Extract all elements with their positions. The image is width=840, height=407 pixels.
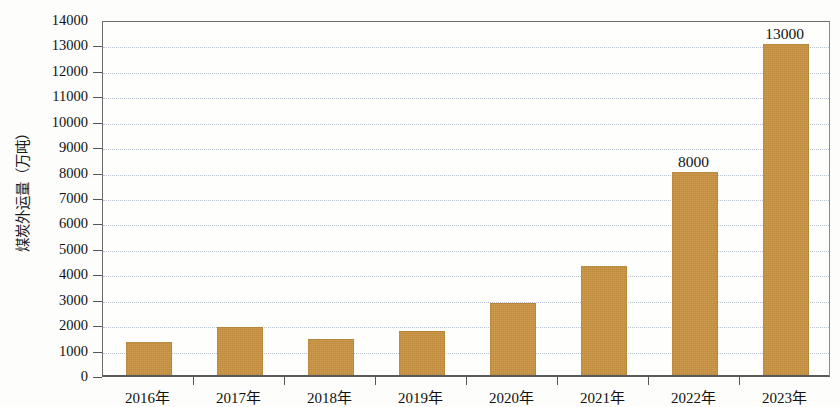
y-tick-mark bbox=[93, 377, 102, 378]
gridline bbox=[103, 124, 829, 125]
y-tick-label: 14000 bbox=[18, 13, 88, 28]
gridline bbox=[103, 276, 829, 277]
y-tick-mark bbox=[93, 123, 102, 124]
x-tick-mark bbox=[284, 377, 285, 385]
y-tick-label: 6000 bbox=[18, 216, 88, 231]
y-tick-label: 9000 bbox=[18, 140, 88, 155]
y-tick-mark bbox=[93, 199, 102, 200]
y-tick-mark bbox=[93, 224, 102, 225]
y-tick-mark bbox=[93, 174, 102, 175]
x-axis-label: 2022年 bbox=[648, 386, 739, 407]
y-tick-mark bbox=[93, 72, 102, 73]
y-tick-mark bbox=[93, 250, 102, 251]
bar-value-label: 13000 bbox=[740, 25, 830, 43]
y-tick-label: 2000 bbox=[18, 318, 88, 333]
bar bbox=[308, 339, 354, 375]
x-tick-mark bbox=[739, 377, 740, 385]
gridline bbox=[103, 353, 829, 354]
x-axis-label: 2019年 bbox=[375, 386, 466, 407]
gridline bbox=[103, 175, 829, 176]
gridline bbox=[103, 47, 829, 48]
y-tick-mark bbox=[93, 275, 102, 276]
bar bbox=[126, 342, 172, 375]
x-axis-label: 2021年 bbox=[557, 386, 648, 407]
gridline bbox=[103, 327, 829, 328]
y-tick-label: 0 bbox=[18, 369, 88, 384]
y-tick-label: 3000 bbox=[18, 293, 88, 308]
x-tick-mark bbox=[648, 377, 649, 385]
y-tick-label: 8000 bbox=[18, 166, 88, 181]
bar bbox=[763, 44, 809, 375]
y-tick-label: 11000 bbox=[18, 89, 88, 104]
y-tick-mark bbox=[93, 352, 102, 353]
gridline bbox=[103, 73, 829, 74]
bar bbox=[217, 327, 263, 375]
y-tick-label: 5000 bbox=[18, 242, 88, 257]
y-tick-label: 7000 bbox=[18, 191, 88, 206]
y-tick-label: 4000 bbox=[18, 267, 88, 282]
x-axis-label: 2017年 bbox=[193, 386, 284, 407]
x-axis-label: 2016年 bbox=[102, 386, 193, 407]
x-axis-label: 2018年 bbox=[284, 386, 375, 407]
bar bbox=[581, 266, 627, 375]
y-tick-label: 12000 bbox=[18, 64, 88, 79]
y-tick-mark bbox=[93, 97, 102, 98]
bar bbox=[672, 172, 718, 375]
bar bbox=[399, 331, 445, 375]
y-tick-mark bbox=[93, 326, 102, 327]
gridline bbox=[103, 149, 829, 150]
y-tick-mark bbox=[93, 148, 102, 149]
x-axis-label: 2023年 bbox=[739, 386, 830, 407]
x-tick-mark bbox=[466, 377, 467, 385]
y-tick-label: 13000 bbox=[18, 38, 88, 53]
plot-area bbox=[102, 21, 830, 377]
gridline bbox=[103, 302, 829, 303]
bar bbox=[490, 303, 536, 375]
x-tick-mark bbox=[557, 377, 558, 385]
gridline bbox=[103, 200, 829, 201]
gridline bbox=[103, 98, 829, 99]
y-tick-mark bbox=[93, 46, 102, 47]
x-tick-mark bbox=[375, 377, 376, 385]
y-tick-mark bbox=[93, 301, 102, 302]
x-tick-mark bbox=[193, 377, 194, 385]
x-axis-label: 2020年 bbox=[466, 386, 557, 407]
gridline bbox=[103, 225, 829, 226]
y-tick-label: 1000 bbox=[18, 344, 88, 359]
y-tick-label: 10000 bbox=[18, 115, 88, 130]
gridline bbox=[103, 251, 829, 252]
bar-value-label: 8000 bbox=[649, 153, 739, 171]
